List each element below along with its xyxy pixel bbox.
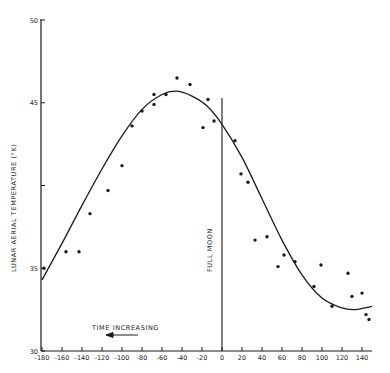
data-point — [77, 250, 80, 253]
x-tick-label: 140 — [356, 354, 368, 362]
time-arrow-icon — [106, 333, 138, 338]
y-tick-label: 50 — [30, 17, 38, 25]
x-tick-label: -60 — [157, 354, 168, 362]
data-points — [42, 76, 370, 321]
data-point — [246, 180, 249, 183]
x-tick-label: -40 — [177, 354, 188, 362]
data-point — [346, 272, 349, 275]
x-tick-label: -180 — [35, 354, 50, 362]
data-point — [276, 265, 279, 268]
chart: 30354550 -180-160-140-120-100-80-60-40-2… — [0, 0, 390, 373]
data-point — [42, 267, 45, 270]
x-tick-label: -120 — [95, 354, 110, 362]
data-point — [152, 103, 155, 106]
data-point — [239, 172, 242, 175]
data-point — [120, 164, 123, 167]
x-tick-label: 120 — [336, 354, 348, 362]
y-tick-label: 45 — [30, 99, 38, 107]
x-tick-label: 0 — [220, 354, 224, 362]
x-tick-label: -140 — [75, 354, 90, 362]
data-point — [350, 295, 353, 298]
full-moon-label: FULL MOON — [206, 228, 214, 272]
x-tick-label: -160 — [55, 354, 70, 362]
data-point — [360, 291, 363, 294]
data-point — [364, 313, 367, 316]
data-point — [312, 285, 315, 288]
data-point — [206, 98, 209, 101]
data-point — [188, 83, 191, 86]
data-point — [175, 76, 178, 79]
data-point — [88, 212, 91, 215]
data-point — [330, 305, 333, 308]
data-point — [140, 109, 143, 112]
y-tick-label: 35 — [30, 265, 38, 273]
data-point — [130, 124, 133, 127]
data-point — [212, 119, 215, 122]
x-tick-label: -100 — [115, 354, 130, 362]
x-ticks: -180-160-140-120-100-80-60-40-2002040608… — [35, 347, 369, 362]
data-point — [201, 126, 204, 129]
x-tick-label: -80 — [137, 354, 148, 362]
data-point — [233, 139, 236, 142]
x-tick-label: 60 — [278, 354, 286, 362]
x-tick-label: -20 — [197, 354, 208, 362]
x-tick-label: 100 — [316, 354, 328, 362]
x-tick-label: 40 — [258, 354, 266, 362]
x-tick-label: 80 — [298, 354, 306, 362]
x-tick-label: 20 — [238, 354, 246, 362]
axes — [41, 19, 372, 351]
data-point — [319, 263, 322, 266]
data-point — [106, 189, 109, 192]
data-point — [282, 253, 285, 256]
data-point — [152, 93, 155, 96]
y-ticks: 30354550 — [30, 17, 45, 356]
data-point — [367, 318, 370, 321]
data-point — [164, 93, 167, 96]
time-increasing-label: TIME INCREASING — [91, 324, 159, 332]
y-axis-title: LUNAR AERIAL TEMPERATURE (°K) — [10, 144, 18, 272]
data-point — [64, 250, 67, 253]
data-point — [293, 260, 296, 263]
data-point — [253, 238, 256, 241]
data-point — [265, 235, 268, 238]
fitted-curve — [42, 91, 372, 310]
